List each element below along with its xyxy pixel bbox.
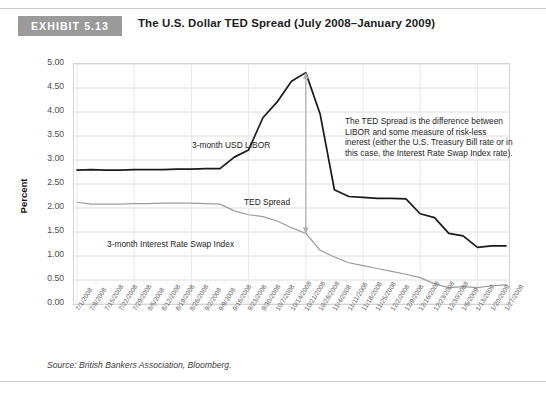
x-axis-ticks: 7/1/20087/8/20087/15/20087/22/20087/29/2… xyxy=(0,306,546,350)
y-tick-label: 0.50 xyxy=(22,273,64,283)
y-tick-label: 1.00 xyxy=(22,249,64,259)
libor-series-label: 3-month USD LIBOR xyxy=(192,140,270,150)
y-tick-label: 2.50 xyxy=(22,177,64,187)
swap-series-label: 3-month Interest Rate Swap Index xyxy=(107,239,234,249)
y-tick-label: 1.50 xyxy=(22,225,64,235)
ted-spread-label: TED Spread xyxy=(244,197,290,207)
source-note: Source: British Bankers Association, Blo… xyxy=(47,360,232,370)
top-divider xyxy=(0,8,546,9)
exhibit-page: EXHIBIT 5.13 The U.S. Dollar TED Spread … xyxy=(0,0,546,402)
bottom-divider xyxy=(0,381,546,382)
y-tick-label: 2.00 xyxy=(22,201,64,211)
y-tick-label: 3.00 xyxy=(22,153,64,163)
exhibit-header: EXHIBIT 5.13 The U.S. Dollar TED Spread … xyxy=(18,16,528,40)
y-tick-label: 3.50 xyxy=(22,129,64,139)
series-canvas xyxy=(74,64,509,304)
y-tick-label: 4.50 xyxy=(22,81,64,91)
chart-container: Percent 0.000.501.001.502.002.503.003.50… xyxy=(0,46,546,346)
page-title: The U.S. Dollar TED Spread (July 2008–Ja… xyxy=(138,17,435,29)
y-tick-label: 4.00 xyxy=(22,105,64,115)
y-tick-label: 5.00 xyxy=(22,57,64,67)
plot-area: 3-month USD LIBOR TED Spread 3-month Int… xyxy=(73,63,510,305)
ted-spread-note: The TED Spread is the difference between… xyxy=(345,116,513,158)
exhibit-badge: EXHIBIT 5.13 xyxy=(18,16,122,36)
